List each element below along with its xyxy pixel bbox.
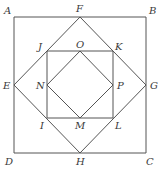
point-label-c: C xyxy=(146,156,154,167)
point-label-l: L xyxy=(114,120,122,131)
diamond-OPMN xyxy=(47,51,113,118)
outer-square-ABCD xyxy=(14,17,146,153)
diagram-labels: AFBJOKENPGIMLDHC xyxy=(2,3,158,167)
point-label-m: M xyxy=(74,120,86,131)
point-label-e: E xyxy=(2,80,11,91)
point-label-o: O xyxy=(76,39,84,50)
point-label-h: H xyxy=(75,156,85,167)
square-JKLI xyxy=(47,51,113,118)
point-label-k: K xyxy=(114,41,123,52)
point-label-j: J xyxy=(36,41,43,52)
point-label-b: B xyxy=(148,5,156,16)
point-label-d: D xyxy=(4,156,13,167)
point-label-n: N xyxy=(35,80,46,91)
diagram-shapes xyxy=(14,17,146,153)
point-label-g: G xyxy=(150,80,158,91)
point-label-i: I xyxy=(39,120,45,131)
point-label-a: A xyxy=(3,5,11,16)
nested-squares-diagram: AFBJOKENPGIMLDHC xyxy=(0,0,164,172)
point-label-p: P xyxy=(116,80,124,91)
point-label-f: F xyxy=(75,3,84,14)
diamond-FGHE xyxy=(14,17,146,153)
